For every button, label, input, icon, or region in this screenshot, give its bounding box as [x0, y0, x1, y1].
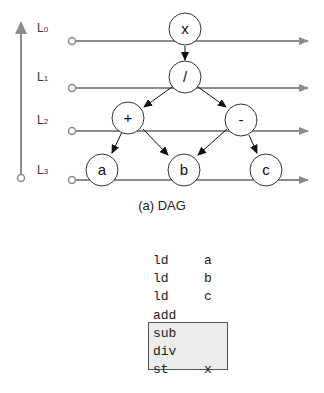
svg-text:+: +	[124, 109, 133, 126]
instruction-list: lda ldb ldc add sub div stx	[153, 252, 212, 379]
opcode: sub	[153, 325, 204, 343]
svg-text:x: x	[181, 20, 189, 37]
node-a: a	[86, 154, 118, 186]
level-label-3: L3	[37, 163, 49, 177]
node-div: /	[169, 61, 201, 93]
instruction-row: add	[153, 307, 212, 325]
level-axis	[15, 21, 27, 182]
instruction-row: stx	[153, 361, 212, 379]
level-label-1: L1	[37, 70, 49, 84]
instruction-row: ldc	[153, 288, 212, 306]
node-sub: -	[225, 104, 257, 136]
dag-diagram: L0 L1 L2 L3 x / +	[0, 0, 324, 200]
opcode: ld	[153, 288, 204, 306]
instruction-row: ldb	[153, 270, 212, 288]
opcode: ld	[153, 252, 204, 270]
node-c: c	[250, 154, 282, 186]
instruction-row: lda	[153, 252, 212, 270]
opcode: st	[153, 361, 204, 379]
svg-text:c: c	[262, 161, 270, 178]
operand: x	[204, 362, 212, 377]
operand: b	[204, 271, 212, 286]
node-b: b	[168, 154, 200, 186]
svg-text:b: b	[180, 161, 188, 178]
operand: a	[204, 253, 212, 268]
node-add: +	[112, 102, 144, 134]
level-label-0: L0	[37, 21, 49, 35]
figure-caption: (a) DAG	[0, 198, 324, 213]
node-x: x	[169, 13, 201, 45]
opcode: add	[153, 307, 204, 325]
opcode: ld	[153, 270, 204, 288]
level-label-2: L2	[37, 113, 49, 127]
svg-text:-: -	[239, 111, 244, 128]
instruction-row: div	[153, 343, 212, 361]
opcode: div	[153, 343, 204, 361]
up-arrow-icon	[15, 21, 27, 34]
operand: c	[204, 289, 212, 304]
instruction-row: sub	[153, 325, 212, 343]
svg-text:a: a	[98, 161, 107, 178]
